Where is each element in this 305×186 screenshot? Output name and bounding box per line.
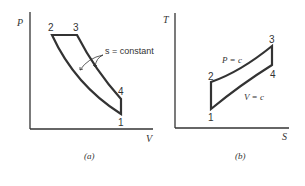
point-4-label: 4 [118, 86, 124, 97]
point-4-label-b: 4 [270, 69, 276, 80]
point-1-label: 1 [118, 117, 124, 128]
constant-pressure-annotation: P = c [221, 55, 242, 65]
otto-cycle-diagrams: P V 2 3 4 1 s = constant (a) T S 2 3 4 1… [0, 0, 305, 186]
constant-volume-annotation: V = c [244, 92, 264, 102]
point-1-label-b: 1 [208, 112, 214, 123]
s-axis-label: S [282, 131, 287, 142]
point-2-label-b: 2 [208, 71, 214, 82]
point-2-label: 2 [48, 22, 54, 33]
v-axis-label: V [146, 133, 154, 144]
point-3-label: 3 [73, 22, 79, 33]
point-3-label-b: 3 [269, 34, 275, 45]
p-axis-label: P [16, 17, 23, 28]
isentropic-annotation: s = constant [105, 46, 154, 56]
caption-a: (a) [84, 151, 95, 161]
t-axis-label: T [163, 14, 170, 25]
caption-b: (b) [235, 151, 246, 161]
